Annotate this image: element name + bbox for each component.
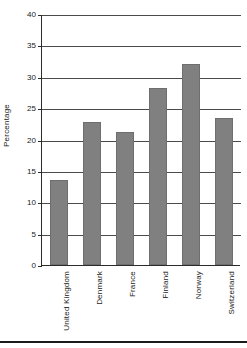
bar: [116, 132, 134, 265]
tick-mark: [38, 266, 42, 267]
x-axis-category-label: Switzerland: [227, 271, 236, 315]
tick-mark: [38, 141, 42, 142]
x-axis-category-label: Norway: [194, 271, 203, 299]
tick-mark: [38, 78, 42, 79]
y-axis-tick-label: 5: [32, 231, 36, 239]
y-axis-tick-label: 40: [27, 11, 36, 19]
y-axis-tick-label: 10: [27, 199, 36, 207]
plot-area: 0510152025303540: [41, 15, 240, 266]
tick-mark: [38, 109, 42, 110]
gridline: [42, 203, 241, 204]
tick-mark: [38, 172, 42, 173]
gridline: [42, 141, 241, 142]
y-axis-tick-label: 15: [27, 168, 36, 176]
tick-mark: [38, 203, 42, 204]
gridline: [42, 172, 241, 173]
gridline: [42, 78, 241, 79]
bar: [182, 64, 200, 265]
bar: [215, 118, 233, 265]
tick-mark: [38, 15, 42, 16]
gridline: [42, 109, 241, 110]
y-axis-tick-label: 25: [27, 105, 36, 113]
y-axis-tick-label: 0: [32, 262, 36, 270]
gridline: [42, 46, 241, 47]
gridline: [42, 15, 241, 16]
x-axis-category-label: France: [128, 271, 137, 297]
y-axis-tick-label: 30: [27, 74, 36, 82]
footer-divider: [0, 341, 247, 343]
x-axis-category-label: Denmark: [95, 271, 104, 305]
bar: [50, 180, 68, 265]
tick-mark: [38, 235, 42, 236]
tick-mark: [38, 46, 42, 47]
gridline: [42, 235, 241, 236]
bar: [149, 88, 167, 265]
x-axis-category-label: Finland: [161, 271, 170, 299]
y-axis-label: Percentage: [2, 104, 11, 147]
bar-chart-figure: Percentage 0510152025303540 United Kingd…: [0, 0, 247, 348]
y-axis-tick-label: 35: [27, 42, 36, 50]
bar: [83, 122, 101, 265]
y-axis-tick-label: 20: [27, 137, 36, 145]
x-axis-category-label: United Kingdom: [62, 271, 71, 331]
